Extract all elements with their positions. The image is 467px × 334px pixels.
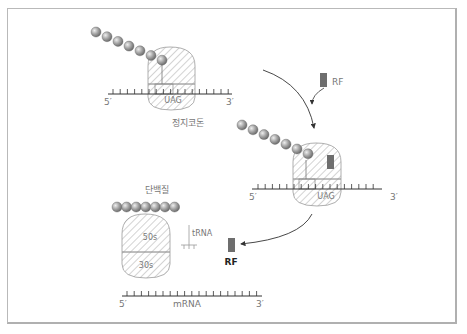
amino-acid-bead xyxy=(270,134,280,144)
amino-acid-bead xyxy=(146,51,156,61)
stage3-rf-label: RF xyxy=(224,257,237,267)
stage2-three-prime: 3′ xyxy=(390,192,398,202)
stage2-mrna-ticks xyxy=(258,184,373,189)
translation-termination-diagram: 5′ 3′ UAG 정지코돈 RF 5′ 3′ UAG 단백질 50s 30s xyxy=(0,0,467,334)
amino-acid-bead xyxy=(292,144,302,154)
amino-acid-bead xyxy=(150,202,160,212)
stage3-three-prime: 3′ xyxy=(256,299,264,309)
arrow-rf-binding xyxy=(312,88,324,104)
amino-acid-bead xyxy=(259,130,269,140)
stage3-group: 단백질 50s 30s tRNA RF 5′ mRNA 3′ xyxy=(112,184,264,309)
stage2-group: 5′ 3′ UAG xyxy=(237,120,398,206)
stage2-rf-bound-icon xyxy=(327,155,334,169)
stage2-stop-codon: UAG xyxy=(317,192,334,201)
amino-acid-bead xyxy=(303,149,313,159)
amino-acid-bead xyxy=(281,139,291,149)
stage1-five-prime: 5′ xyxy=(104,97,112,107)
amino-acid-bead xyxy=(131,202,141,212)
amino-acid-bead xyxy=(102,32,112,42)
amino-acid-bead xyxy=(124,41,134,51)
stage1-stop-codon-caption: 정지코돈 xyxy=(172,118,204,128)
amino-acid-bead xyxy=(170,202,180,212)
amino-acid-bead xyxy=(157,55,167,65)
stage3-mrna-ticks xyxy=(127,291,257,296)
arrow-stage1-to-stage2 xyxy=(263,70,314,128)
stage3-released-protein xyxy=(112,202,180,212)
stage1-group: 5′ 3′ UAG 정지코돈 xyxy=(91,27,234,128)
amino-acid-bead xyxy=(91,27,101,37)
stage2-five-prime: 5′ xyxy=(249,192,257,202)
arrow-rf-release xyxy=(241,214,312,244)
amino-acid-bead xyxy=(113,36,123,46)
stage3-large-subunit-label: 50s xyxy=(143,233,157,242)
amino-acid-bead xyxy=(135,46,145,56)
amino-acid-bead xyxy=(122,202,132,212)
stage1-three-prime: 3′ xyxy=(226,97,234,107)
stage3-protein-label: 단백질 xyxy=(145,184,169,195)
amino-acid-bead xyxy=(248,125,258,135)
stage3-five-prime: 5′ xyxy=(119,299,127,309)
rf-incoming-icon xyxy=(320,73,327,87)
amino-acid-bead xyxy=(237,120,247,130)
rf-incoming-label: RF xyxy=(332,77,343,87)
stage1-stop-codon: UAG xyxy=(164,96,181,105)
stage3-rf-icon xyxy=(228,238,235,252)
amino-acid-bead xyxy=(141,202,151,212)
stage3-small-subunit-label: 30s xyxy=(139,261,153,270)
amino-acid-bead xyxy=(112,202,122,212)
stage3-mrna-label: mRNA xyxy=(173,299,202,309)
stage3-trna-label: tRNA xyxy=(192,229,213,238)
stage1-mrna-ticks xyxy=(113,89,228,94)
amino-acid-bead xyxy=(160,202,170,212)
